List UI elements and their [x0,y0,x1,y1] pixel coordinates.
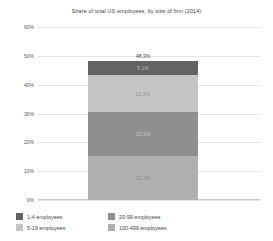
gridline [38,27,260,28]
bar-segment: 15.2% [88,112,198,156]
y-axis-tick-label: 0% [27,197,34,203]
stacked-bar-chart: Share of total US employees, by size of … [0,0,273,241]
legend-item[interactable]: 100-499 employees [108,224,216,231]
legend-label: 20-99 employees [119,214,160,220]
y-axis-tick-label: 50% [24,53,34,59]
bar-segment-label: 15.2% [136,175,151,181]
legend-label: 1-4 employees [27,214,62,220]
chart-title: Share of total US employees, by size of … [0,8,273,14]
bar-segment: 15.2% [88,156,198,200]
legend-label: 100-499 employees [119,225,166,231]
gridline [38,200,260,201]
legend-swatch [108,213,115,220]
legend-swatch [16,224,23,231]
y-axis-tick-label: 20% [24,139,34,145]
y-axis-tick-label: 10% [24,168,34,174]
y-axis-tick-label: 30% [24,111,34,117]
bar-segment-label: 12.8% [136,91,151,97]
bar-segment: 12.8% [88,75,198,112]
legend-swatch [16,213,23,220]
legend-label: 5-19 employees [27,225,65,231]
y-axis-tick-label: 40% [24,82,34,88]
bar-total-label: 48.3% [88,53,198,59]
legend-swatch [108,224,115,231]
legend-item[interactable]: 20-99 employees [108,213,216,220]
chart-legend: 1-4 employees20-99 employees5-19 employe… [16,211,216,233]
stacked-bar-column: 5.1%12.8%15.2%15.2% [88,61,198,200]
plot-area: 60%50%40%30%20%10%0% 48.3% 5.1%12.8%15.2… [38,27,260,200]
y-axis-tick-label: 60% [24,24,34,30]
legend-item[interactable]: 1-4 employees [16,213,108,220]
bar-segment: 5.1% [88,61,198,76]
bar-segment-label: 5.1% [137,65,149,71]
bar-segment-label: 15.2% [136,131,151,137]
legend-item[interactable]: 5-19 employees [16,224,108,231]
